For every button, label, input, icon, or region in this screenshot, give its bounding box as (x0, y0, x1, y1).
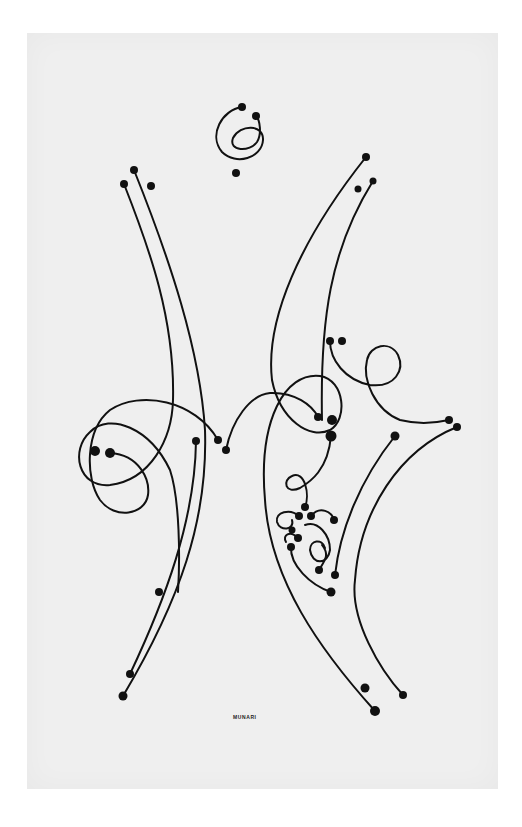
center-arch (226, 393, 318, 450)
right-strands (264, 157, 457, 711)
line-drawing (0, 0, 522, 827)
artist-signature: MUNARI (233, 714, 257, 720)
left-strands (79, 170, 218, 696)
